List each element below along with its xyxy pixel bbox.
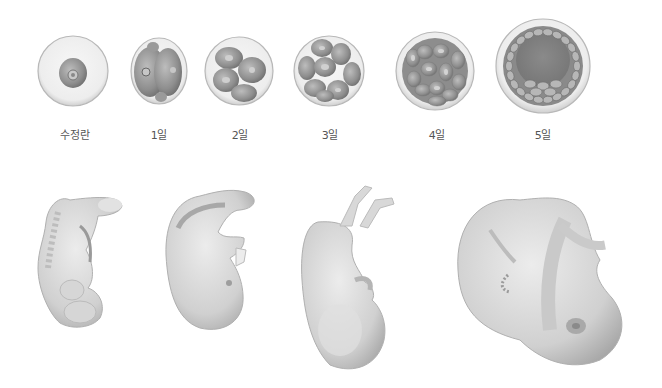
stage-fetus-early: [302, 186, 394, 369]
label-day-1: 1일: [151, 126, 167, 142]
stage-early-embryo: [38, 198, 122, 328]
stage-fetus-late: [458, 198, 622, 365]
inner-cell-mass-cell: [530, 88, 542, 96]
stage-zygote: [38, 36, 108, 106]
label-zygote: 수정란: [60, 126, 89, 142]
development-diagram: [0, 0, 662, 388]
label-day-3: 3일: [322, 126, 338, 142]
stage-day-5: [496, 19, 590, 113]
label-day-4: 4일: [429, 126, 445, 142]
trophoblast-cell: [506, 61, 513, 71]
stage-day-3: [294, 36, 364, 106]
label-day-2: 2일: [232, 126, 248, 142]
inner-cell-mass-cell: [550, 80, 562, 88]
stage-day-2: [205, 37, 273, 105]
stage-day-4: [396, 32, 474, 110]
stage-day-1: [131, 38, 187, 104]
label-day-5: 5일: [535, 126, 551, 142]
trophoblast-cell: [574, 61, 581, 71]
inner-cell-mass-cell: [524, 80, 536, 88]
inner-cell-mass-cell: [544, 88, 556, 96]
stage-embryo-limb-buds: [166, 190, 254, 329]
